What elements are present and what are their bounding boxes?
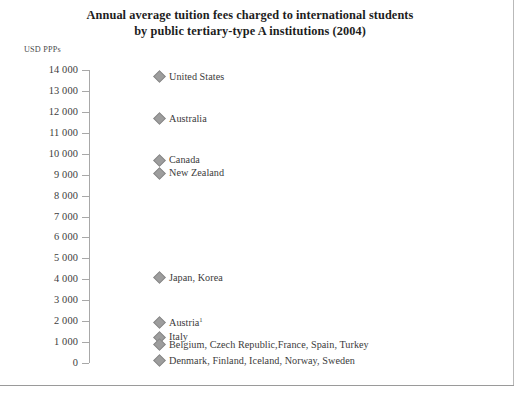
y-axis-tick-label: 1 000 [0, 336, 78, 347]
y-axis-tick-label: 7 000 [0, 211, 78, 222]
data-point: Denmark, Finland, Iceland, Norway, Swede… [155, 356, 355, 366]
y-axis-line [89, 70, 90, 363]
data-point-label-text: Austria [169, 317, 199, 328]
data-point-label: Canada [169, 155, 200, 165]
data-point: Austria1 [155, 318, 203, 328]
data-point-label-text: Australia [169, 113, 207, 124]
y-axis-tick [82, 342, 89, 343]
y-axis-tick [82, 363, 89, 364]
y-axis-tick [82, 321, 89, 322]
data-point-label-text: New Zealand [169, 167, 224, 178]
y-axis-tick-label: 10 000 [0, 148, 78, 159]
y-axis-tick-label: 8 000 [0, 190, 78, 201]
diamond-marker-icon [153, 271, 166, 284]
y-axis-tick-label: 0 [0, 357, 78, 368]
y-axis-tick-label: 13 000 [0, 85, 78, 96]
y-axis-tick-label: 14 000 [0, 64, 78, 75]
data-point-label: Japan, Korea [169, 273, 223, 283]
footnote-marker: 1 [199, 315, 202, 322]
data-point: Japan, Korea [155, 273, 223, 283]
y-axis-tick [82, 237, 89, 238]
chart-title-line-2: by public tertiary-type A institutions (… [0, 24, 500, 40]
y-axis-tick-label: 2 000 [0, 315, 78, 326]
frame-right-rule [513, 0, 514, 386]
diamond-marker-icon [153, 354, 166, 367]
y-axis-tick-label: 11 000 [0, 127, 78, 138]
data-point: New Zealand [155, 168, 224, 178]
data-point-label: Austria1 [169, 318, 203, 328]
data-point-label-text: Denmark, Finland, Iceland, Norway, Swede… [169, 355, 355, 366]
data-point-label-text: Japan, Korea [169, 272, 223, 283]
y-axis-tick [82, 196, 89, 197]
data-point: Belgium, Czech Republic,France, Spain, T… [155, 340, 369, 350]
chart-figure: Annual average tuition fees charged to i… [0, 0, 531, 395]
diamond-marker-icon [153, 338, 166, 351]
y-axis-tick [82, 258, 89, 259]
data-point: Australia [155, 114, 207, 124]
y-axis-tick-label: 4 000 [0, 273, 78, 284]
data-point-label-text: Canada [169, 154, 200, 165]
data-point: Canada [155, 155, 200, 165]
chart-title-line-1: Annual average tuition fees charged to i… [0, 8, 500, 24]
data-point-label: New Zealand [169, 168, 224, 178]
frame-bottom-rule [0, 385, 514, 386]
data-point: United States [155, 72, 224, 82]
y-axis-unit-label: USD PPPs [24, 45, 61, 54]
y-axis-tick-label: 9 000 [0, 169, 78, 180]
y-axis-tick [82, 300, 89, 301]
data-point-label: Denmark, Finland, Iceland, Norway, Swede… [169, 356, 355, 366]
y-axis-tick [82, 154, 89, 155]
diamond-marker-icon [153, 167, 166, 180]
chart-title: Annual average tuition fees charged to i… [0, 8, 500, 39]
y-axis-tick-label: 3 000 [0, 294, 78, 305]
y-axis-tick [82, 70, 89, 71]
y-axis-tick-label: 12 000 [0, 106, 78, 117]
y-axis-tick-label: 6 000 [0, 231, 78, 242]
diamond-marker-icon [153, 154, 166, 167]
diamond-marker-icon [153, 70, 166, 83]
diamond-marker-icon [153, 316, 166, 329]
diamond-marker-icon [153, 112, 166, 125]
data-point-label: United States [169, 72, 224, 82]
y-axis-tick [82, 217, 89, 218]
data-point-label: Australia [169, 114, 207, 124]
data-point-label-text: United States [169, 71, 224, 82]
y-axis-tick [82, 112, 89, 113]
y-axis-tick [82, 279, 89, 280]
y-axis-tick [82, 91, 89, 92]
data-point-label-text: Belgium, Czech Republic,France, Spain, T… [169, 339, 369, 350]
y-axis-tick-label: 5 000 [0, 252, 78, 263]
data-point-label: Belgium, Czech Republic,France, Spain, T… [169, 340, 369, 350]
y-axis-tick [82, 133, 89, 134]
y-axis-tick [82, 175, 89, 176]
